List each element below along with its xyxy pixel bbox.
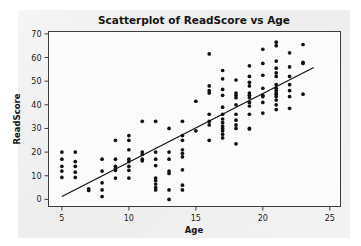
y-tick-label: 50 <box>31 77 41 86</box>
data-point <box>181 188 185 192</box>
y-tick-label: 70 <box>31 30 41 39</box>
chart-canvas: Scatterplot of ReadScore vs Age Age Read… <box>0 0 361 246</box>
data-point <box>221 129 225 133</box>
data-point <box>154 182 158 186</box>
data-point <box>207 84 211 88</box>
data-point <box>154 120 158 124</box>
y-tick-label: 0 <box>36 195 41 204</box>
data-point <box>114 138 118 142</box>
data-point <box>288 51 292 55</box>
data-point <box>301 43 305 47</box>
data-point <box>181 183 185 187</box>
data-point <box>73 150 77 154</box>
data-point <box>207 91 211 95</box>
data-point <box>167 127 171 131</box>
data-point <box>167 150 171 154</box>
data-point <box>194 99 198 103</box>
data-point <box>114 176 118 180</box>
data-point <box>60 157 64 161</box>
data-point <box>261 95 265 99</box>
data-point <box>167 172 171 176</box>
data-point <box>221 69 225 73</box>
data-point <box>301 62 305 66</box>
data-point <box>288 75 292 79</box>
data-point <box>181 168 185 172</box>
data-point <box>73 160 77 164</box>
data-point <box>261 62 265 66</box>
data-point <box>274 44 278 48</box>
data-point <box>288 83 292 87</box>
x-tick-label: 5 <box>59 214 64 223</box>
y-tick-label: 10 <box>31 172 41 181</box>
data-point <box>234 123 238 127</box>
data-point <box>274 103 278 107</box>
y-tick-label: 40 <box>31 101 41 110</box>
data-point <box>181 151 185 155</box>
data-point <box>261 111 265 115</box>
data-point <box>261 101 265 105</box>
data-point <box>248 64 252 68</box>
data-point <box>100 157 104 161</box>
data-point <box>274 75 278 79</box>
data-point <box>207 123 211 127</box>
data-point <box>127 148 131 152</box>
data-point <box>207 138 211 142</box>
data-point <box>274 71 278 75</box>
data-point <box>127 138 131 142</box>
data-point <box>127 134 131 138</box>
chart-title: Scatterplot of ReadScore vs Age <box>98 14 290 26</box>
plot-area-frame <box>49 32 341 207</box>
data-point <box>114 157 118 161</box>
data-point <box>261 47 265 51</box>
data-point <box>60 150 64 154</box>
data-point <box>221 136 225 140</box>
data-point <box>181 120 185 124</box>
data-point <box>248 112 252 116</box>
data-point <box>301 92 305 96</box>
y-axis-title: ReadScore <box>12 93 22 144</box>
data-point <box>181 138 185 142</box>
data-point <box>234 112 238 116</box>
data-point <box>140 159 144 163</box>
data-point <box>181 155 185 159</box>
data-point <box>221 105 225 109</box>
data-point <box>154 150 158 154</box>
y-tick-label: 30 <box>31 124 41 133</box>
y-axis-ticks: 010203040506070 <box>31 30 48 205</box>
data-point <box>234 142 238 146</box>
data-point <box>60 176 64 180</box>
data-point <box>60 164 64 168</box>
x-tick-label: 15 <box>191 214 201 223</box>
data-point <box>60 169 64 173</box>
data-point <box>274 59 278 63</box>
data-point <box>248 75 252 79</box>
data-point <box>100 195 104 199</box>
data-point <box>73 170 77 174</box>
data-point <box>100 188 104 192</box>
x-tick-label: 10 <box>124 214 134 223</box>
data-point <box>154 179 158 183</box>
x-axis-ticks: 510152025 <box>59 207 335 223</box>
data-point <box>221 94 225 98</box>
data-point <box>274 95 278 99</box>
x-tick-label: 20 <box>258 214 268 223</box>
data-point <box>234 118 238 122</box>
data-point <box>261 86 265 90</box>
data-point <box>288 107 292 111</box>
data-point <box>154 164 158 168</box>
data-point <box>248 80 252 84</box>
data-point <box>167 157 171 161</box>
data-point <box>234 127 238 131</box>
data-point <box>221 88 225 92</box>
data-point <box>248 127 252 131</box>
data-point <box>207 52 211 56</box>
data-point <box>127 168 131 172</box>
data-point <box>73 176 77 180</box>
data-point <box>221 117 225 121</box>
data-point <box>167 188 171 192</box>
data-point <box>274 98 278 102</box>
data-point <box>127 164 131 168</box>
data-point <box>274 108 278 112</box>
data-point <box>261 73 265 77</box>
data-point <box>154 188 158 192</box>
